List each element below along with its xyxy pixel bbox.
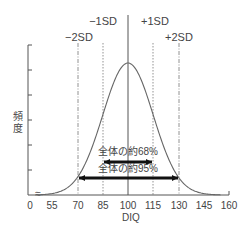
svg-text:145: 145	[196, 200, 213, 211]
svg-text:115: 115	[145, 200, 161, 211]
minus-1sd-label: −1SD	[89, 15, 117, 27]
normal-distribution-chart: −1SD +1SD −2SD +2SD 頻 度 ≈ 0 55 70 85 100…	[0, 0, 249, 228]
svg-text:70: 70	[72, 200, 84, 211]
svg-text:0: 0	[27, 200, 33, 211]
plus-2sd-label: +2SD	[165, 31, 193, 43]
plus-1sd-label: +1SD	[141, 15, 169, 27]
svg-text:160: 160	[221, 200, 238, 211]
range-68-label: 全体の約68%	[98, 145, 158, 157]
svg-text:100: 100	[120, 200, 137, 211]
y-axis-label-2: 度	[13, 122, 23, 134]
y-axis-ticks	[28, 45, 32, 170]
minus-2sd-label: −2SD	[65, 31, 93, 43]
svg-text:130: 130	[171, 200, 188, 211]
axis-break-icon: ≈	[35, 188, 41, 199]
y-axis-label-1: 頻	[13, 110, 23, 122]
x-tick-labels: 0 55 70 85 100 115 130 145 160	[27, 200, 238, 211]
x-axis-label: DIQ	[122, 212, 140, 223]
range-95-label: 全体の約95%	[98, 162, 158, 174]
svg-text:55: 55	[46, 200, 58, 211]
svg-text:85: 85	[97, 200, 109, 211]
